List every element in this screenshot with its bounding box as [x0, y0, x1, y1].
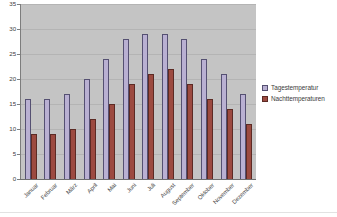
y-tick-label: 15 — [0, 101, 16, 107]
x-tick-label: April — [85, 182, 98, 195]
bottom-divider — [0, 212, 337, 213]
y-tick-mark — [17, 54, 20, 55]
bar-group — [21, 4, 41, 179]
bar-nachttemperaturen — [31, 134, 37, 179]
bar-group — [80, 4, 100, 179]
bar-nachttemperaturen — [168, 69, 174, 179]
y-tick-label: 35 — [0, 1, 16, 7]
y-tick-label: 5 — [0, 151, 16, 157]
y-tick-label: 0 — [0, 176, 16, 182]
y-tick-mark — [17, 29, 20, 30]
bar-nachttemperaturen — [70, 129, 76, 179]
bar-group — [99, 4, 119, 179]
bar-group — [41, 4, 61, 179]
y-tick-label: 20 — [0, 76, 16, 82]
y-tick-mark — [17, 79, 20, 80]
bar-nachttemperaturen — [148, 74, 154, 179]
y-tick-mark — [17, 104, 20, 105]
bar-chart: 05101520253035 JanuarFebruarMärzAprilMai… — [0, 0, 337, 217]
bar-group — [119, 4, 139, 179]
bar-nachttemperaturen — [109, 104, 115, 179]
legend-label: Tagestemperatur — [271, 84, 318, 91]
y-tick-label: 30 — [0, 26, 16, 32]
y-tick-label: 10 — [0, 126, 16, 132]
bar-group — [158, 4, 178, 179]
bar-groups — [21, 4, 256, 179]
y-tick-label: 25 — [0, 51, 16, 57]
bar-nachttemperaturen — [246, 124, 252, 179]
bar-nachttemperaturen — [227, 109, 233, 179]
x-tick-label: Juni — [125, 182, 137, 194]
x-tick-label: Mai — [106, 182, 117, 193]
legend-label: Nachttemperaturen — [271, 95, 325, 102]
y-tick-mark — [17, 129, 20, 130]
x-tick-label: August — [159, 182, 176, 199]
bar-nachttemperaturen — [129, 84, 135, 179]
legend-item: Nachttemperaturen — [262, 93, 336, 104]
bar-nachttemperaturen — [207, 99, 213, 179]
legend-item: Tagestemperatur — [262, 82, 336, 93]
x-tick-label: Februar — [40, 182, 59, 201]
y-axis: 05101520253035 — [0, 4, 19, 179]
bar-group — [217, 4, 237, 179]
x-tick-label: März — [65, 182, 79, 196]
plot-area — [21, 4, 256, 179]
bar-nachttemperaturen — [90, 119, 96, 179]
legend-swatch-day — [262, 85, 268, 91]
bar-nachttemperaturen — [187, 84, 193, 179]
bar-group — [60, 4, 80, 179]
bar-group — [236, 4, 256, 179]
bar-group — [197, 4, 217, 179]
y-tick-mark — [17, 179, 20, 180]
y-tick-mark — [17, 154, 20, 155]
x-tick-label: Juli — [146, 182, 157, 193]
bar-nachttemperaturen — [50, 134, 56, 179]
x-tick-label: Januar — [22, 182, 39, 199]
bar-group — [178, 4, 198, 179]
y-tick-mark — [17, 4, 20, 5]
chart-legend: TagestemperaturNachttemperaturen — [262, 82, 336, 104]
bar-group — [138, 4, 158, 179]
legend-swatch-night — [262, 96, 268, 102]
